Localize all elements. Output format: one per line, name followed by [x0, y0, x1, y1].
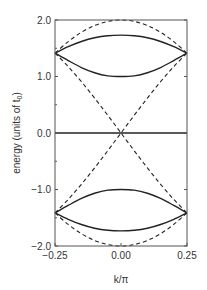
solid-inner-lower-line	[55, 190, 187, 213]
dashed-lower-arc-line	[55, 213, 187, 246]
dashed-upper-arc-line	[55, 20, 187, 53]
x-tick-label: −0.25	[42, 250, 68, 261]
y-tick-label: −1.0	[31, 184, 51, 195]
x-tick-label: 0.25	[177, 250, 197, 261]
plot-lines	[55, 20, 187, 246]
y-axis-label-close: )	[11, 92, 22, 95]
y-tick-label: 0.0	[37, 128, 51, 139]
y-axis-label: energy (units of t0)	[11, 92, 23, 174]
y-tick-label: 2.0	[37, 15, 51, 26]
solid-inner-upper-line	[55, 53, 187, 76]
solid-outer-upper-line	[55, 35, 187, 53]
x-axis-label: k/π	[114, 274, 129, 285]
y-axis-label-main: energy (units of t	[11, 99, 22, 174]
x-tick-label: 0.00	[111, 250, 131, 261]
y-tick-label: 1.0	[37, 71, 51, 82]
band-structure-chart: −2.0−1.00.01.02.0 −0.250.000.25 k/π ener…	[0, 0, 207, 290]
solid-outer-lower-line	[55, 213, 187, 231]
